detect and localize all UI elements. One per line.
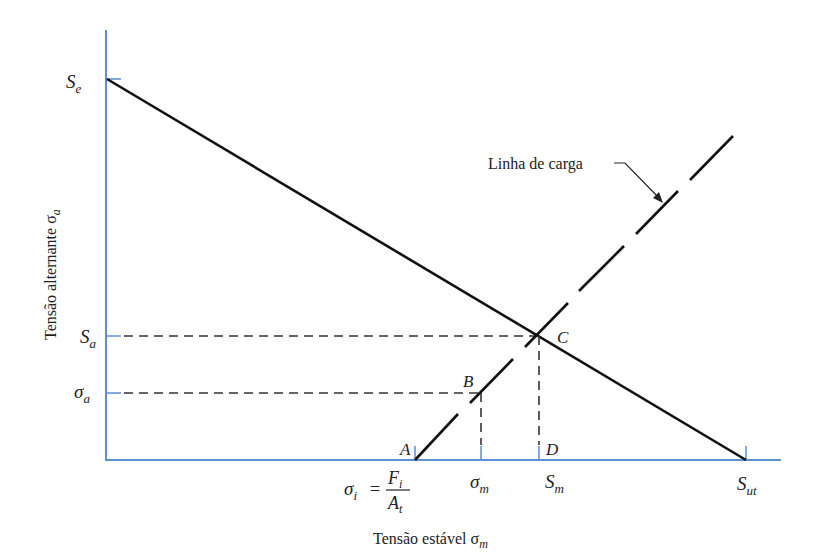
x-axis-title: Tensão estável σm xyxy=(373,530,488,551)
label-sm: Sm xyxy=(545,471,564,496)
svg-text:=: = xyxy=(370,479,380,499)
y-axis-title: Tensão alternante σa xyxy=(42,209,63,340)
svg-text:σi: σi xyxy=(344,478,357,503)
goodman-diagram: Linha de carga Se Sa σa Tensão alternant… xyxy=(0,0,813,558)
load-line-label: Linha de carga xyxy=(488,155,583,173)
load-line xyxy=(415,136,733,460)
label-sigma-a: σa xyxy=(74,381,90,406)
point-c-label: C xyxy=(557,328,569,347)
label-sigma-m: σm xyxy=(470,471,489,496)
label-sa: Sa xyxy=(80,326,97,351)
svg-text:Fi: Fi xyxy=(387,468,402,491)
label-sut: Sut xyxy=(737,473,757,498)
goodman-line xyxy=(107,79,746,460)
point-b-label: B xyxy=(463,372,474,391)
point-d-label: D xyxy=(545,440,559,459)
leader-line xyxy=(614,163,660,199)
point-a-label: A xyxy=(399,440,411,459)
preload-formula: σi = Fi At xyxy=(344,468,410,516)
svg-text:At: At xyxy=(387,493,403,516)
label-se: Se xyxy=(66,71,82,96)
